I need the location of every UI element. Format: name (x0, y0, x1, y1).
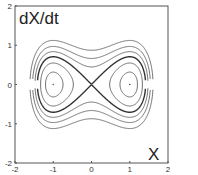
trajectory-curves (30, 40, 153, 128)
x-tick-label: 1 (128, 165, 133, 174)
phase-portrait-chart: -2-1012210-1-2 dX/dt X (0, 0, 198, 175)
y-tick-label: 2 (8, 2, 13, 11)
y-tick-label: 0 (8, 81, 13, 90)
y-tick-label: 1 (8, 41, 13, 50)
x-axis-label: X (148, 145, 159, 164)
x-tick-label: 0 (89, 165, 94, 174)
x-tick-label: -1 (50, 165, 58, 174)
y-axis-label: dX/dt (19, 9, 59, 28)
x-tick-label: -2 (11, 165, 19, 174)
x-tick-label: 2 (166, 165, 171, 174)
fixed-point-marker (129, 84, 131, 86)
y-tick-label: -2 (5, 159, 13, 168)
y-tick-label: -1 (5, 120, 13, 129)
fixed-point-marker (52, 84, 54, 86)
